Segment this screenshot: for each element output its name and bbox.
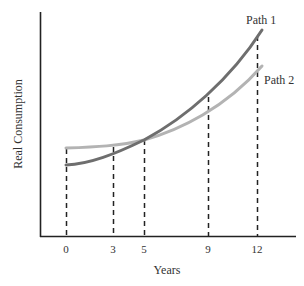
x-tick-label: 3 [110,243,116,255]
consumption-paths-chart: Path 1 Path 2 0 3 5 9 12 Years Real Cons… [0,0,304,286]
x-tick-label: 0 [63,243,69,255]
y-axis-title: Real Consumption [11,79,25,169]
dashed-drop-lines [67,36,258,236]
path-1-label: Path 1 [246,13,276,27]
x-axis-title: Years [154,263,181,277]
path-2-curve [66,66,262,148]
path-1-curve [66,30,262,165]
x-tick-label: 5 [141,243,147,255]
x-tick-label: 12 [252,243,263,255]
path-2-label: Path 2 [264,73,294,87]
x-tick-label: 9 [205,243,211,255]
